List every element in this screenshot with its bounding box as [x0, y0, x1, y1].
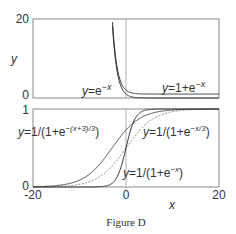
- label-sigmoid: y=1/(1+e−x): [122, 165, 183, 180]
- xtick-20: 20: [212, 188, 226, 202]
- figure-caption: Figure D: [106, 216, 145, 228]
- label-sigmoid-shifted: y=1/(1+e−(x+3)/3): [17, 124, 99, 139]
- label-exp: y=e−x: [81, 82, 112, 98]
- top-panel: 20 0 y y=e−x y=1+e−x: [10, 12, 219, 102]
- bottom-xlabel: x: [168, 198, 176, 212]
- top-ytick-max: 20: [16, 12, 30, 26]
- top-ylabel: y: [10, 52, 18, 66]
- bottom-panel: 1 0 -20 0 20 x y=1/(1+e−(x+3)/3) y=1/(1+…: [17, 103, 226, 212]
- top-ytick-min: 0: [22, 88, 29, 102]
- label-sigmoid-x-over-3: y=1/(1+e−x/3): [142, 124, 210, 139]
- xtick-0: 0: [123, 188, 130, 202]
- label-one-plus-exp: y=1+e−x: [161, 79, 206, 95]
- figure-d: 20 0 y y=e−x y=1+e−x 1 0 -20 0 20 x y=1/…: [0, 0, 236, 234]
- bottom-ytick-max: 1: [22, 103, 29, 117]
- xtick-neg20: -20: [24, 188, 42, 202]
